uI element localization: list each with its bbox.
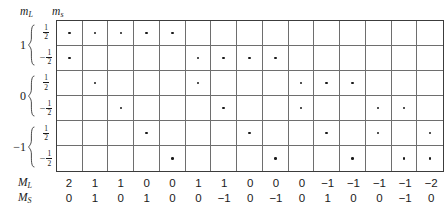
grid-cell [392,146,418,171]
electron-dot [120,32,123,35]
grid-cell [186,121,212,146]
total-value: 0 [159,178,185,190]
grid-cell [314,71,340,96]
electron-dot [197,57,200,60]
electron-dot [351,82,354,85]
ms-pair: 12−12 [35,121,56,172]
grid-cell [83,146,109,171]
grid-cell [289,46,315,71]
grid-cell [366,96,392,121]
electron-dot [351,157,354,160]
total-value: −1 [211,193,237,205]
ML-label: ML [18,177,52,190]
grid-cell [160,146,186,171]
grid-cell [134,121,160,146]
grid-cell [83,96,109,121]
grid-cell [211,21,237,46]
grid-cell [237,96,263,121]
grid-cell [134,96,160,121]
total-value: 0 [159,193,185,205]
grid-cell [314,121,340,146]
grid-cell [314,96,340,121]
grid-cell [340,21,366,46]
total-value: 1 [185,178,211,190]
grid-cell [366,46,392,71]
grid-cell [211,71,237,96]
grid-cell [57,46,83,71]
grid-cell [289,121,315,146]
grid-cell [57,121,83,146]
total-value: 1 [211,178,237,190]
grid-cell [417,46,443,71]
ms-value: 12 [43,125,49,142]
microstate-figure: mL ms 112−12012−12−112−12 ML 2110011000−… [0,0,446,214]
total-value: −1 [392,193,418,205]
electron-dot [197,82,200,85]
grid-cell [417,146,443,171]
total-value: −1 [315,178,341,190]
total-value: 0 [263,178,289,190]
ms-value: −12 [40,100,53,117]
grid-cell [57,146,83,171]
grid-cell [340,146,366,171]
electron-dot [222,57,225,60]
total-value: 0 [108,193,134,205]
electron-dot [274,157,277,160]
grid-cell [83,46,109,71]
grid-cell [108,21,134,46]
total-value: −1 [366,178,392,190]
ms-value: 12 [43,75,49,92]
grid-cell [186,46,212,71]
ml-value: −1 [0,141,28,153]
electron-dot [325,132,328,135]
total-value: 1 [134,193,160,205]
total-value: 0 [341,193,367,205]
electron-dot [403,107,406,110]
grid-cell [263,21,289,46]
total-value: 0 [185,193,211,205]
grid-cell [314,146,340,171]
grid-cell [134,146,160,171]
ml-group: −112−12 [0,121,56,172]
total-value: 0 [289,178,315,190]
ml-group: 112−12 [0,20,56,71]
total-value: 0 [289,193,315,205]
grid-cell [160,121,186,146]
electron-dot [429,132,432,135]
MS-label: MS [18,192,52,205]
grid-cell [366,121,392,146]
electron-dot [429,157,432,160]
grid-cell [263,71,289,96]
grid-cell [314,46,340,71]
electron-dot [248,132,251,135]
grid-cell [392,96,418,121]
grid-cell [237,46,263,71]
grid-cell [340,46,366,71]
electron-dot [171,32,174,35]
grid-cell [83,71,109,96]
grid-cell [108,146,134,171]
grid-cell [366,71,392,96]
grid-cell [392,71,418,96]
grid-cell [263,146,289,171]
electron-dot [377,107,380,110]
grid-cell [417,71,443,96]
grid-cell [108,46,134,71]
grid-cell [340,96,366,121]
electron-dot [222,107,225,110]
ml-value: 0 [0,90,28,102]
ms-pair: 12−12 [35,20,56,71]
grid-cell [83,21,109,46]
electron-dot [94,82,97,85]
ML-row: ML 2110011000−1−1−1−1−2 [0,176,446,191]
grid-cell [108,96,134,121]
grid-cell [417,21,443,46]
grid-cell [57,96,83,121]
total-value: 1 [108,178,134,190]
total-value: 0 [418,193,444,205]
brace-icon [28,126,35,168]
grid-cell [186,146,212,171]
grid-cell [160,96,186,121]
brace-icon [28,24,35,66]
grid-cell [186,96,212,121]
